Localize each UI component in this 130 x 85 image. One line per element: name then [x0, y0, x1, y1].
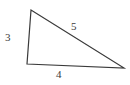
triangle-drawing — [0, 0, 130, 85]
triangle-figure: 3 4 5 — [0, 0, 130, 85]
side-label-left: 3 — [5, 32, 11, 43]
side-label-bottom: 4 — [56, 69, 62, 80]
triangle-outline — [27, 10, 124, 68]
side-label-hypotenuse: 5 — [71, 21, 77, 32]
